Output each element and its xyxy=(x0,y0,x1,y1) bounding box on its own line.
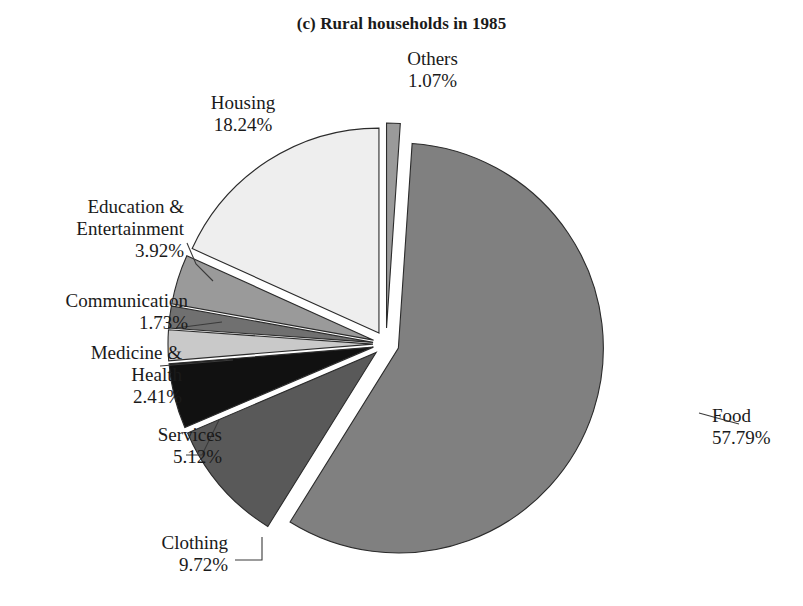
slice-value-text: 5.12% xyxy=(110,446,222,468)
pie-slices-group xyxy=(168,123,603,553)
pie-slice[interactable] xyxy=(387,123,401,328)
slice-name-text: Clothing xyxy=(118,532,228,554)
slice-label: Others1.07% xyxy=(380,48,485,92)
slice-name-text: Medicine & xyxy=(54,342,182,364)
leader-line xyxy=(235,537,262,560)
slice-value-text: 2.41% xyxy=(54,386,182,408)
slice-value-text: 57.79% xyxy=(712,427,803,449)
slice-label: Medicine &Health2.41% xyxy=(54,342,182,408)
slice-label: Services5.12% xyxy=(110,424,222,468)
slice-label: Housing18.24% xyxy=(178,92,308,136)
slice-label: Food57.79% xyxy=(712,405,803,449)
slice-name-text: Housing xyxy=(178,92,308,114)
slice-name-text: Education & xyxy=(48,196,184,218)
slice-name-text: Communication xyxy=(24,290,188,312)
slice-label: Communication1.73% xyxy=(24,290,188,334)
slice-value-text: 1.73% xyxy=(24,312,188,334)
chart-figure: (c) Rural households in 1985 Others1.07%… xyxy=(0,0,803,606)
slice-name-text: Food xyxy=(712,405,803,427)
slice-label: Clothing9.72% xyxy=(118,532,228,576)
slice-value-text: 18.24% xyxy=(178,114,308,136)
slice-name-text: Entertainment xyxy=(48,218,184,240)
slice-value-text: 3.92% xyxy=(48,240,184,262)
slice-value-text: 9.72% xyxy=(118,554,228,576)
slice-name-text: Health xyxy=(54,364,182,386)
slice-name-text: Services xyxy=(110,424,222,446)
slice-name-text: Others xyxy=(380,48,485,70)
slice-label: Education &Entertainment3.92% xyxy=(48,196,184,262)
slice-value-text: 1.07% xyxy=(380,70,485,92)
